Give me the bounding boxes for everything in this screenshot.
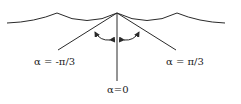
label-alpha-zero: α=0 (107, 84, 129, 95)
surface-curve (7, 13, 225, 23)
label-alpha-pi-3: α = π/3 (166, 56, 204, 67)
label-alpha-neg-pi-3: α = -π/3 (34, 56, 75, 67)
left-arc-arrow (95, 32, 110, 40)
right-arc-arrow (124, 32, 139, 40)
ray-right (117, 13, 176, 50)
ray-left (58, 13, 117, 50)
